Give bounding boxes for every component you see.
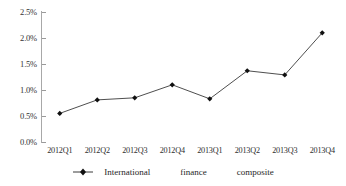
data-point-marker	[170, 82, 175, 87]
x-tick-label-2013q1: 2013Q1	[191, 145, 229, 159]
x-tick-label-2013q4: 2013Q4	[304, 145, 342, 159]
data-point-marker	[95, 97, 100, 102]
series-line	[60, 33, 323, 114]
data-point-marker	[57, 111, 62, 116]
x-tick-label-2013q3: 2013Q3	[266, 145, 304, 159]
x-axis: 2012Q1 2012Q2 2012Q3 2012Q4 2013Q1 2013Q…	[41, 145, 341, 159]
legend-label-word-2: finance	[180, 167, 206, 178]
line-chart-figure: 2.5% 2.0% 1.5% 1.0% 0.5% 0.0% 2012Q1 201…	[0, 0, 346, 186]
legend-entry-international-finance-composite: International finance composite	[72, 167, 273, 178]
line-diamond-marker-icon	[72, 167, 94, 177]
x-tick-label-2012q1: 2012Q1	[41, 145, 79, 159]
x-tick-label-2012q3: 2012Q3	[116, 145, 154, 159]
series-markers	[57, 30, 325, 116]
x-tick-label-2012q4: 2012Q4	[154, 145, 192, 159]
chart-legend: International finance composite	[0, 163, 346, 181]
data-point-marker	[132, 95, 137, 100]
legend-label-word-1: International	[104, 167, 150, 178]
legend-label-word-3: composite	[237, 167, 274, 178]
x-tick-label-2013q2: 2013Q2	[229, 145, 267, 159]
x-tick-label-2012q2: 2012Q2	[79, 145, 117, 159]
